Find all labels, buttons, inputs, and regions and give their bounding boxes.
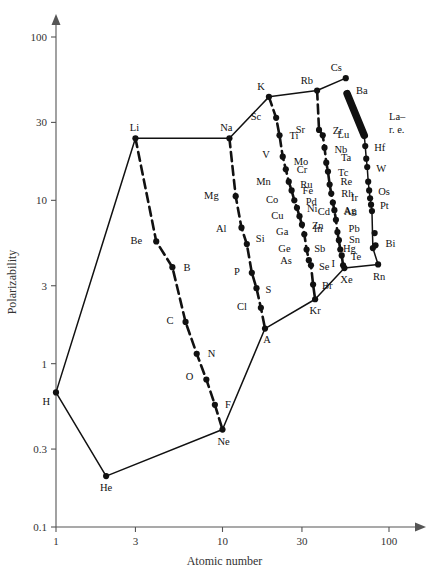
element-label-C: C: [167, 315, 174, 326]
data-point-Co[interactable]: [291, 197, 297, 203]
data-point-Pt[interactable]: [368, 202, 374, 208]
data-point-Cd[interactable]: [333, 217, 339, 223]
element-label-Pt: Pt: [380, 200, 389, 211]
data-point-Bi[interactable]: [372, 242, 378, 248]
element-label-As: As: [280, 255, 292, 266]
data-point-Ne[interactable]: [219, 426, 225, 432]
data-point-Ag[interactable]: [331, 207, 337, 213]
y-tick-label: 1: [42, 358, 48, 370]
chart-svg: 1003010310.30.1131030100Atomic numberPol…: [0, 0, 433, 578]
data-point-P[interactable]: [249, 270, 255, 276]
data-point-Re[interactable]: [365, 179, 371, 185]
data-point-Cr[interactable]: [283, 166, 289, 172]
data-point-Tc[interactable]: [325, 168, 331, 174]
data-point-Ti[interactable]: [276, 132, 282, 138]
element-label-Ne: Ne: [217, 436, 230, 447]
data-point-Na[interactable]: [226, 135, 232, 141]
element-label-Cs: Cs: [331, 62, 342, 73]
data-point-K[interactable]: [266, 94, 272, 100]
data-point-Au[interactable]: [369, 208, 375, 214]
element-label-V: V: [262, 149, 270, 160]
data-point-Sr[interactable]: [316, 127, 322, 133]
data-point-Lu[interactable]: [361, 132, 367, 138]
element-label-W: W: [376, 163, 386, 174]
y-tick-label: 100: [31, 31, 48, 43]
x-tick-label: 1: [53, 535, 59, 547]
element-label-Pb: Pb: [349, 223, 360, 234]
data-point-Zn[interactable]: [299, 222, 305, 228]
element-label-Ta: Ta: [341, 152, 352, 163]
data-point-Mo[interactable]: [323, 160, 329, 166]
data-point-Mn[interactable]: [286, 179, 292, 185]
data-point-Zr[interactable]: [320, 132, 326, 138]
element-label-S: S: [265, 284, 271, 295]
data-point-Be[interactable]: [153, 238, 159, 244]
element-label-Sb: Sb: [314, 243, 325, 254]
data-point-Br[interactable]: [310, 281, 316, 287]
data-point-Mg[interactable]: [233, 193, 239, 199]
element-label-Si: Si: [256, 233, 265, 244]
element-label-In: In: [314, 223, 323, 234]
data-point-F[interactable]: [212, 402, 218, 408]
data-point-Nb[interactable]: [321, 145, 327, 151]
data-point-Xe[interactable]: [341, 265, 347, 271]
element-label-Mn: Mn: [256, 176, 271, 187]
data-point-In[interactable]: [334, 229, 340, 235]
data-point-Kr[interactable]: [312, 296, 318, 302]
data-point-Cl[interactable]: [258, 305, 264, 311]
data-point-W[interactable]: [364, 164, 370, 170]
y-tick-label: 10: [36, 194, 48, 206]
data-point-A[interactable]: [262, 325, 268, 331]
element-label-Bi: Bi: [386, 238, 396, 249]
element-label-Li: Li: [130, 122, 139, 133]
data-point-Rn[interactable]: [375, 261, 381, 267]
element-label-Br: Br: [322, 280, 333, 291]
data-point-Li[interactable]: [132, 135, 138, 141]
element-label-Ir: Ir: [351, 192, 358, 203]
data-point-Al[interactable]: [238, 225, 244, 231]
data-point-Ta[interactable]: [363, 156, 369, 162]
data-point-H[interactable]: [53, 389, 59, 395]
element-label-Rb: Rb: [301, 75, 313, 86]
data-point-Se[interactable]: [308, 262, 314, 268]
data-point-Ir[interactable]: [367, 195, 373, 201]
data-point-Ge[interactable]: [304, 246, 310, 252]
element-label-Na: Na: [220, 122, 233, 133]
data-point-Hf[interactable]: [362, 143, 368, 149]
data-point-O[interactable]: [203, 376, 209, 382]
data-point-Sc[interactable]: [273, 115, 279, 121]
data-point-V[interactable]: [280, 154, 286, 160]
element-label-K: K: [257, 81, 265, 92]
element-label-F: F: [225, 399, 231, 410]
data-point-B[interactable]: [169, 264, 175, 270]
element-label-I: I: [332, 258, 336, 269]
data-point-Ga[interactable]: [301, 231, 307, 237]
data-point-Si[interactable]: [244, 241, 250, 247]
data-point-Ni[interactable]: [294, 205, 300, 211]
data-point-S[interactable]: [253, 285, 259, 291]
element-label-He: He: [100, 482, 113, 493]
element-label-Be: Be: [131, 235, 143, 246]
element-label-Xe: Xe: [340, 274, 353, 285]
data-point-Cs[interactable]: [343, 75, 349, 81]
data-point-Pb[interactable]: [372, 230, 378, 236]
data-point-N[interactable]: [194, 351, 200, 357]
data-point-Ba[interactable]: [344, 91, 350, 97]
element-label-Cu: Cu: [271, 210, 284, 221]
data-point-Pd[interactable]: [330, 199, 336, 205]
x-tick-label: 30: [296, 535, 308, 547]
x-axis-title: Atomic number: [187, 554, 263, 568]
data-point-Rh[interactable]: [328, 190, 334, 196]
element-label-Rn: Rn: [373, 271, 386, 282]
data-point-Os[interactable]: [366, 187, 372, 193]
data-point-C[interactable]: [182, 319, 188, 325]
x-tick-label: 100: [381, 535, 398, 547]
element-label-Mo: Mo: [294, 156, 309, 167]
data-point-Ru[interactable]: [327, 181, 333, 187]
data-point-Cu[interactable]: [296, 213, 302, 219]
element-label-N: N: [208, 348, 216, 359]
data-point-He[interactable]: [103, 473, 109, 479]
data-point-Sn[interactable]: [336, 237, 342, 243]
data-point-Fe[interactable]: [288, 187, 294, 193]
data-point-Rb[interactable]: [314, 87, 320, 93]
